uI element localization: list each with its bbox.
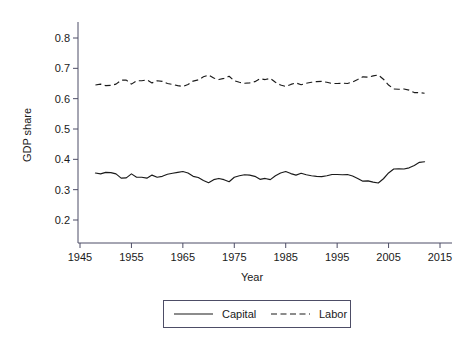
- x-axis-title: Year: [241, 271, 264, 283]
- gdp-share-line-chart: 0.20.30.40.50.60.70.8 194519551965197519…: [0, 0, 475, 350]
- y-tick-label: 0.6: [55, 93, 70, 105]
- x-tick-label: 1975: [222, 251, 246, 263]
- x-tick-label: 1945: [68, 251, 92, 263]
- x-tick-label: 1965: [171, 251, 195, 263]
- y-tick-label: 0.8: [55, 32, 70, 44]
- legend-label-labor: Labor: [319, 308, 347, 320]
- x-tick-label: 1955: [119, 251, 143, 263]
- legend-label-capital: Capital: [222, 308, 256, 320]
- x-tick-label: 2015: [428, 251, 452, 263]
- chart-legend: Capital Labor: [164, 301, 351, 328]
- y-tick-label: 0.5: [55, 123, 70, 135]
- chart-figure: 0.20.30.40.50.60.70.8 194519551965197519…: [0, 0, 475, 350]
- y-axis-title: GDP share: [21, 108, 33, 162]
- x-tick-label: 2005: [376, 251, 400, 263]
- y-tick-label: 0.4: [55, 153, 70, 165]
- x-tick-label: 1995: [325, 251, 349, 263]
- chart-background: [0, 0, 475, 350]
- x-tick-label: 1985: [273, 251, 297, 263]
- y-tick-label: 0.2: [55, 214, 70, 226]
- y-tick-label: 0.3: [55, 184, 70, 196]
- y-tick-label: 0.7: [55, 62, 70, 74]
